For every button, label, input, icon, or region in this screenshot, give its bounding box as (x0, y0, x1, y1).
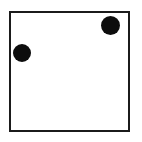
left-dot (13, 44, 31, 62)
upper-right-dot (101, 16, 120, 35)
square-outline (9, 11, 130, 132)
figure-canvas (0, 0, 142, 142)
